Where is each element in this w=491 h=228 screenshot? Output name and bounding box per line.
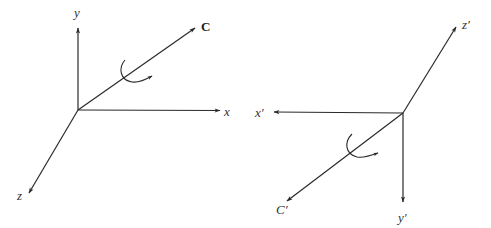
z-prime-axis xyxy=(403,27,456,113)
c-axis xyxy=(78,28,195,110)
right-frame: z′ x′ y′ C′ xyxy=(254,17,470,225)
coordinate-frames-diagram: y x z C z′ x′ y′ C′ xyxy=(0,0,491,228)
y-prime-axis-label: y′ xyxy=(396,210,407,225)
z-axis-label: z xyxy=(16,188,22,203)
left-frame: y x z C xyxy=(16,5,230,203)
x-axis xyxy=(78,110,220,111)
rotation-arrow-icon xyxy=(347,134,378,157)
rotation-arrow-icon xyxy=(121,60,152,82)
z-prime-axis-label: z′ xyxy=(461,17,470,32)
z-axis xyxy=(29,110,78,193)
x-axis-label: x xyxy=(223,104,230,119)
c-axis-label: C xyxy=(201,19,210,34)
y-axis-label: y xyxy=(72,5,80,20)
x-prime-axis xyxy=(274,112,403,113)
x-prime-axis-label: x′ xyxy=(254,105,264,120)
c-prime-axis-label: C′ xyxy=(276,202,288,217)
c-prime-axis xyxy=(287,113,403,201)
